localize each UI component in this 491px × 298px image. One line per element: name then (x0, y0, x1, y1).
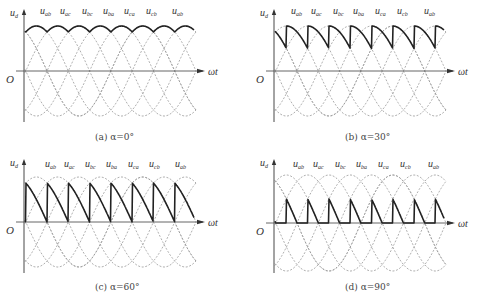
curve-label-u-cb: ucb (146, 5, 157, 17)
curve-label-u-cb: ucb (400, 158, 411, 170)
origin-label: O (256, 225, 264, 237)
panel-alpha-0: udOωtuabuacubcubaucaucbuab(a) α=0° (6, 5, 218, 142)
curve-label-u-ba: uba (103, 5, 114, 17)
curve-label-u-bc: ubc (335, 158, 346, 170)
x-axis-label: ωt (458, 66, 468, 77)
curve-label-u-ab: uab (172, 5, 183, 17)
curve-label-u-ca: uca (128, 158, 139, 170)
x-axis-label: ωt (458, 218, 468, 229)
y-axis-label: ud (260, 157, 269, 169)
curve-label-u-ab: uab (175, 158, 186, 170)
y-axis-arrow-icon (22, 159, 26, 165)
curve-label-u-cb: ucb (397, 5, 408, 17)
output-voltage-ud (25, 183, 194, 222)
curve-label-u-ab: uab (45, 158, 56, 170)
curve-label-u-ab: uab (40, 5, 51, 17)
panel-caption: (b) α=30° (345, 132, 390, 142)
curve-label-u-ba: uba (106, 158, 117, 170)
curve-label-u-ba: uba (356, 158, 367, 170)
curve-label-u-bc: ubc (85, 158, 96, 170)
curve-label-u-ab: uab (291, 5, 302, 17)
curve-label-u-ab: uab (428, 158, 439, 170)
panel-alpha-30: udOωtuabuacubcubaucaucbuab(b) α=30° (256, 5, 468, 142)
panel-caption: (a) α=0° (95, 132, 134, 142)
x-axis-label: ωt (208, 66, 218, 77)
curve-label-u-bc: ubc (333, 5, 344, 17)
y-axis-label: ud (10, 7, 19, 19)
y-axis-label: ud (260, 7, 269, 19)
curve-label-u-ac: uac (311, 5, 322, 17)
curve-label-u-ca: uca (378, 158, 389, 170)
y-axis-arrow-icon (22, 9, 26, 15)
y-axis-label: ud (10, 157, 19, 169)
curve-label-u-ab: uab (293, 158, 304, 170)
x-axis-arrow-icon (447, 221, 455, 225)
panel-alpha-90: udOωtuabuacubcubaucaucbuab(d) α=90° (256, 157, 468, 292)
output-voltage-ud (25, 26, 194, 32)
origin-label: O (6, 224, 14, 236)
curve-label-u-cb: ucb (149, 158, 160, 170)
y-axis-arrow-icon (272, 159, 276, 165)
x-axis-arrow-icon (197, 69, 205, 73)
y-axis-arrow-icon (272, 9, 276, 15)
origin-label: O (6, 73, 14, 85)
panel-alpha-60: udOωtuabuacubcubaucaucbuab(c) α=60° (6, 157, 218, 292)
curve-label-u-ca: uca (124, 5, 135, 17)
curve-label-u-ab: uab (424, 5, 435, 17)
x-axis-label: ωt (208, 217, 218, 228)
rectifier-waveform-figure: udOωtuabuacubcubaucaucbuab(a) α=0° udOωt… (0, 0, 491, 298)
curve-label-u-bc: ubc (82, 5, 93, 17)
x-axis-arrow-icon (197, 220, 205, 224)
curve-label-u-ac: uac (64, 158, 75, 170)
curve-label-u-ba: uba (353, 5, 364, 17)
x-axis-arrow-icon (447, 69, 455, 73)
curve-label-u-ac: uac (313, 158, 324, 170)
curve-label-u-ca: uca (375, 5, 386, 17)
panel-caption: (d) α=90° (345, 282, 390, 292)
origin-label: O (256, 73, 264, 85)
output-voltage-ud (275, 199, 444, 223)
curve-label-u-ac: uac (60, 5, 71, 17)
panel-caption: (c) α=60° (95, 282, 140, 292)
